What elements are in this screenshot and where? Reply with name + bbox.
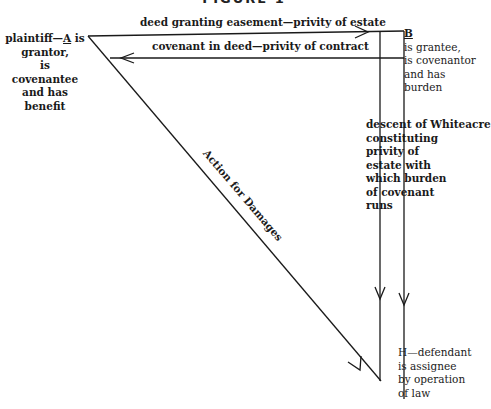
node-b-line: is covenantor [404,54,476,68]
descent-line: estate with [366,159,491,173]
descent-edge-label: descent of Whiteacre constituting privit… [366,118,491,213]
node-a-role: plaintiff— [5,32,63,44]
descent-line: of covenant [366,186,491,200]
node-a-suffix: is [71,32,85,44]
covenant-edge-label: covenant in deed—privity of contract [152,40,369,52]
node-h-line: by operation [398,373,471,387]
action-arrow-line [88,36,381,381]
node-b-label: B is grantee, is covenantor and has burd… [404,27,476,95]
node-a-letter: A [63,32,71,44]
deed-arrow-line [88,31,404,36]
node-a-line: covenantee [4,73,86,87]
node-h-line: of law [398,387,471,401]
node-a-line: benefit [4,100,86,114]
node-b-line: and has [404,68,476,82]
descent-line: descent of Whiteacre [366,118,491,132]
node-b-letter: B [404,27,476,41]
node-b-line: is grantee, [404,41,476,55]
node-a-label: plaintiff—A is grantor, is covenantee an… [4,32,86,113]
node-h-label: H—defendant is assignee by operation of … [398,346,471,400]
node-a-line: grantor, [4,46,86,60]
descent-line: privity of [366,145,491,159]
node-h-line: is assignee [398,360,471,374]
node-a-line: and has [4,86,86,100]
node-h-line: H—defendant [398,346,471,360]
descent-line: constituting [366,132,491,146]
deed-edge-label: deed granting easement—privity of estate [140,16,386,28]
action-arrowhead-icon [348,356,361,370]
node-a-line: is [4,59,86,73]
descent-line: which burden [366,172,491,186]
node-b-line: burden [404,81,476,95]
descent-line: runs [366,199,491,213]
